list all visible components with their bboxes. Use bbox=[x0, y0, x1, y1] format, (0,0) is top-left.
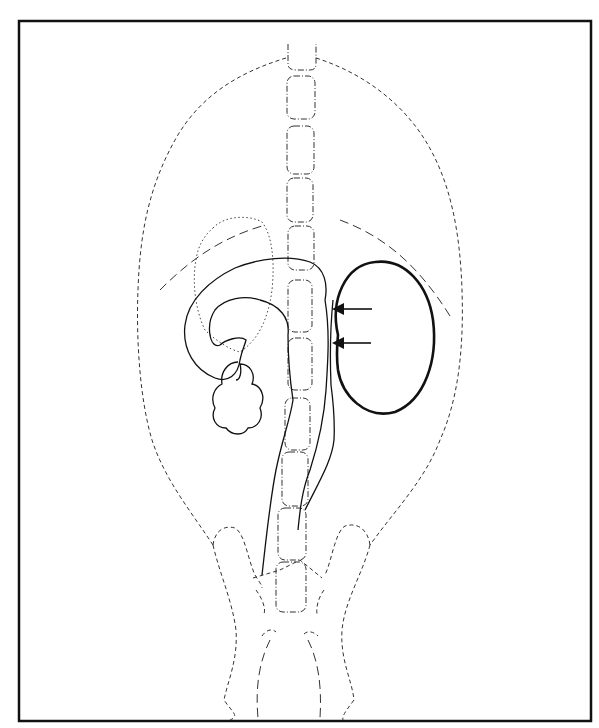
liver-outline bbox=[194, 217, 273, 352]
pelvis-legs bbox=[213, 525, 370, 720]
body-outline bbox=[138, 58, 463, 545]
arrow-upper bbox=[332, 303, 372, 315]
diaphragm-left bbox=[160, 226, 262, 290]
kidney-mass bbox=[336, 262, 434, 414]
spine-vertebrae bbox=[276, 44, 316, 612]
ureter-or-vessel bbox=[305, 300, 334, 510]
bowel-loop bbox=[213, 362, 263, 434]
anatomical-diagram bbox=[0, 0, 599, 728]
stomach-duodenum bbox=[185, 258, 326, 575]
